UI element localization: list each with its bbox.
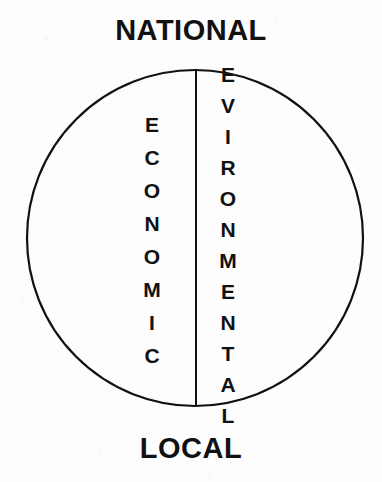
environmental-letter: R: [220, 157, 235, 178]
environmental-letter: V: [221, 95, 235, 116]
environmental-letter: M: [219, 250, 237, 271]
environmental-letter: I: [225, 126, 231, 147]
economic-letter: N: [144, 213, 159, 234]
economic-letter: E: [145, 114, 159, 135]
economic-letter: O: [144, 246, 160, 267]
economic-letter: C: [144, 345, 159, 366]
environmental-letter: E: [221, 281, 235, 302]
environmental-letter: A: [220, 374, 235, 395]
environmental-letter: E: [221, 64, 235, 85]
environmental-letter: N: [220, 312, 235, 333]
economic-letter: O: [144, 180, 160, 201]
diagram-canvas: NATIONAL E C O N O M I C E V I R O N M E…: [0, 0, 382, 482]
environmental-letter: O: [220, 188, 236, 209]
economic-letter: M: [143, 279, 161, 300]
environmental-letter: T: [222, 343, 235, 364]
economic-letter: C: [144, 147, 159, 168]
divided-circle-figure: [0, 0, 382, 482]
vertical-word-economic: E C O N O M I C: [132, 114, 172, 378]
vertical-word-environmental: E V I R O N M E N T A L: [208, 64, 248, 436]
environmental-letter: N: [220, 219, 235, 240]
environmental-letter: L: [222, 405, 235, 426]
economic-letter: I: [149, 312, 155, 333]
pole-label-local: LOCAL: [0, 432, 382, 465]
